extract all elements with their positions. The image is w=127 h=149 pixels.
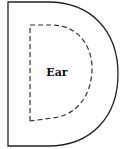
ear-label: Ear (46, 66, 68, 79)
ear-diagram: Ear (0, 0, 127, 149)
